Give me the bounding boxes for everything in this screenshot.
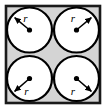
radius-label-bottom-right: r — [71, 85, 76, 97]
center-dot-top-left — [27, 27, 32, 32]
radius-label-top-right: r — [71, 12, 76, 24]
center-dot-bottom-left — [27, 76, 32, 81]
circle-group-bottom-left: r — [7, 56, 52, 101]
radius-label-bottom-left: r — [24, 85, 29, 97]
center-dot-top-right — [74, 27, 79, 32]
radius-label-top-left: r — [23, 12, 28, 24]
circle-group-bottom-right: r — [54, 56, 99, 101]
circle-group-top-left: r — [7, 8, 52, 53]
circle-group-top-right: r — [54, 8, 99, 53]
figure-root: r r r r — [0, 0, 109, 110]
center-dot-bottom-right — [74, 76, 79, 81]
geometry-diagram: r r r r — [0, 0, 109, 110]
